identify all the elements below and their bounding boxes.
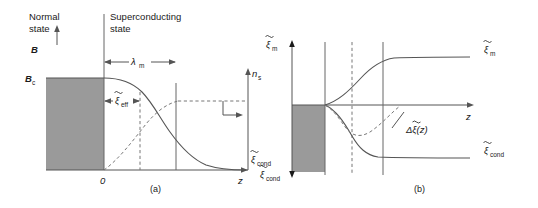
delta-xi-tilde [413,121,421,123]
delta-xi-annotation: Δξ(z) [405,121,428,135]
ns-curve [104,101,178,170]
lambda-m-marker: λ m [104,53,176,69]
svg-text:ξ: ξ [484,145,489,156]
z-axis-arrow-b [467,102,474,108]
lambda-m-arrow-right [169,59,176,65]
xi-m-axis-label-b: ξ m [266,36,278,53]
svg-text:s: s [258,74,262,81]
xi-m-curve-tilde [484,41,492,43]
svg-text:c: c [32,79,36,86]
panel-a-caption: (a) [150,184,161,194]
superconducting-state-label-line1: Superconducting [110,11,181,22]
xi-cond-axis-label-a: ξ cond [251,151,272,168]
normal-state-label-line1: Normal [29,11,60,22]
y-axis-arrow-down-b [289,171,295,178]
delta-xi-leader [392,112,404,128]
figure-root: Normal state Superconducting state B B c… [0,0,538,208]
ns-step-arrow [236,112,243,118]
y-axis-arrow-up-b [289,40,295,47]
origin-label-a: 0 [100,175,106,186]
figure-svg: Normal state Superconducting state B B c… [0,0,538,208]
xi-cond-axis-label-b: ξ cond [260,166,281,183]
panel-b-caption: (b) [414,184,425,194]
svg-text:ξ: ξ [484,44,489,55]
z-label-b: z [465,111,471,122]
normal-state-block-b [292,105,325,172]
panel-a: Normal state Superconducting state B B c… [25,11,271,194]
superconducting-state-label-line2: state [110,23,131,34]
ns-axis-arrow [245,68,251,75]
b-axis-label: B [31,44,38,55]
svg-text:m: m [490,50,495,57]
xi-cond-curve [325,105,470,158]
b-axis-arrow [54,25,60,32]
panel-b: ξ m ξ cond z ξ m ξ cond [260,36,505,195]
normal-state-block [46,78,104,170]
xi-m-curve-label: ξ m [484,41,496,58]
xi-eff-arrow-right [133,98,140,104]
svg-text:ξ: ξ [260,169,265,180]
svg-text:m: m [272,45,277,52]
xi-cond-tilde-a [251,151,259,153]
lambda-m-subscript: m [139,62,144,69]
xi-cond-curve-tilde [484,142,492,144]
svg-text:cond: cond [257,160,271,167]
svg-text:ξ: ξ [266,39,271,50]
ns-step-path [223,101,238,115]
svg-text:ξ: ξ [251,154,256,165]
ns-axis-label: n s [252,68,262,81]
svg-text:cond: cond [266,175,280,182]
xi-eff-subscript: eff [121,101,128,108]
z-label-a: z [237,175,243,186]
normal-state-label-line2: state [29,23,50,34]
lambda-m-symbol: λ [130,56,136,67]
xi-eff-arrow-left [104,98,111,104]
svg-text:B: B [25,73,32,84]
svg-text:cond: cond [490,151,504,158]
xi-m-tilde-b [266,36,274,38]
svg-text:n: n [252,68,257,79]
xi-m-curve [325,57,470,105]
xi-cond-curve-label: ξ cond [484,142,505,159]
svg-text:Δξ(z): Δξ(z) [405,124,428,135]
bc-tick-label: B c [25,73,36,86]
delta-xi-curve [325,105,400,135]
ns-step-indicator [223,101,243,118]
xi-eff-marker: ξ eff [104,92,140,109]
lambda-m-arrow-left [104,59,111,65]
